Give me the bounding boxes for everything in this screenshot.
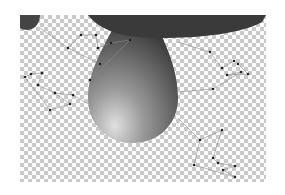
scene-layer — [20, 15, 266, 182]
viewport-canvas[interactable] — [20, 15, 266, 182]
corner-blob-shape[interactable] — [20, 15, 40, 30]
drop-shape[interactable] — [88, 28, 178, 143]
